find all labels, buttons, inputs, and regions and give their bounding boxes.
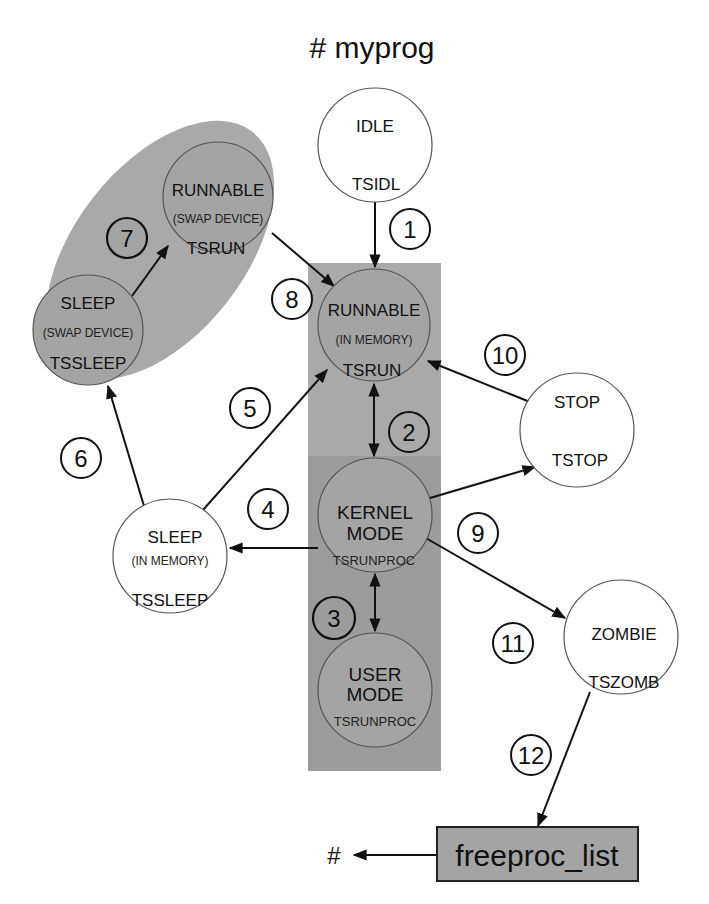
svg-text:4: 4 (261, 496, 274, 523)
state-name: IDLE (356, 117, 394, 136)
svg-text:12: 12 (518, 742, 545, 769)
freeproc-list-box: freeproc_list (437, 827, 638, 881)
state-sub: (SWAP DEVICE) (43, 326, 134, 340)
state-name-line2: MODE (347, 684, 404, 705)
state-name: STOP (554, 393, 600, 412)
transition-label-2: 2 (389, 412, 429, 452)
swap-device-region (1, 79, 320, 420)
diagram-title: # myprog (309, 31, 434, 64)
state-name-line1: USER (349, 664, 402, 685)
edge-9 (430, 467, 535, 498)
process-state-diagram: # myprog IDLE TSIDL RUNNABLE (IN MEMORY)… (0, 0, 709, 904)
edge-11 (424, 537, 565, 618)
svg-text:3: 3 (327, 605, 340, 632)
state-kernel-mode: KERNEL MODE TSRUNPROC (318, 458, 432, 572)
svg-text:10: 10 (492, 342, 519, 369)
transition-label-3: 3 (313, 597, 355, 639)
state-code: TSSLEEP (50, 354, 127, 373)
transition-label-7: 7 (107, 218, 147, 258)
state-sleep-in-memory: SLEEP (IN MEMORY) TSSLEEP (113, 499, 227, 613)
state-sub: (SWAP DEVICE) (173, 212, 264, 226)
state-sub: (IN MEMORY) (131, 554, 208, 568)
svg-text:8: 8 (285, 286, 298, 313)
transition-label-11: 11 (493, 623, 533, 663)
state-zombie: ZOMBIE TSZOMB (564, 580, 678, 694)
state-code: TSRUNPROC (333, 553, 415, 568)
state-code: TSRUN (343, 361, 402, 380)
state-idle: IDLE TSIDL (318, 88, 432, 202)
state-code: TSZOMB (589, 673, 660, 692)
edge-6 (108, 386, 144, 506)
transition-label-12: 12 (511, 735, 551, 775)
edge-8 (272, 233, 334, 286)
transition-label-4: 4 (248, 489, 288, 529)
state-name-line1: KERNEL (337, 502, 413, 523)
state-name: ZOMBIE (591, 625, 656, 644)
state-sub: (IN MEMORY) (335, 333, 412, 347)
state-name: RUNNABLE (172, 181, 265, 200)
transition-label-6: 6 (61, 438, 101, 478)
transition-label-10: 10 (485, 335, 525, 375)
state-user-mode: USER MODE TSRUNPROC (318, 633, 432, 747)
svg-text:5: 5 (243, 395, 256, 422)
freeproc-list-label: freeproc_list (455, 839, 619, 872)
freeproc-target-hash: # (327, 842, 341, 869)
svg-text:2: 2 (402, 419, 415, 446)
svg-text:11: 11 (501, 630, 526, 657)
state-code: TSSLEEP (132, 591, 209, 610)
state-name-line2: MODE (347, 523, 404, 544)
svg-text:7: 7 (120, 225, 133, 252)
state-stop: STOP TSTOP (520, 373, 634, 487)
state-code: TSRUN (187, 239, 246, 258)
transition-label-1: 1 (390, 209, 430, 249)
state-code: TSTOP (552, 451, 608, 470)
state-name: SLEEP (61, 294, 116, 313)
state-runnable-in-memory: RUNNABLE (IN MEMORY) TSRUN (318, 269, 430, 381)
transition-label-5: 5 (230, 388, 270, 428)
state-code: TSIDL (352, 175, 400, 194)
state-name: SLEEP (148, 528, 203, 547)
svg-text:9: 9 (471, 520, 484, 547)
state-sleep-swap-device: SLEEP (SWAP DEVICE) TSSLEEP (33, 275, 143, 385)
transition-label-9: 9 (458, 513, 498, 553)
svg-text:6: 6 (74, 445, 87, 472)
svg-text:1: 1 (403, 216, 416, 243)
state-code: TSRUNPROC (334, 714, 416, 729)
transition-label-8: 8 (272, 279, 312, 319)
state-name: RUNNABLE (328, 301, 421, 320)
